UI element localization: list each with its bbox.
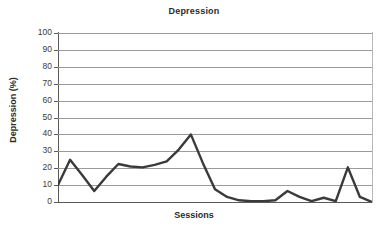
chart-title: Depression [0,6,388,16]
y-tick-label-50: 50 [30,113,52,122]
y-axis-label: Depression (%) [8,35,18,185]
x-axis-label: Sessions [0,210,388,220]
y-tick-label-60: 60 [30,96,52,105]
y-tick-label-0: 0 [30,197,52,206]
y-tick-label-40: 40 [30,129,52,138]
y-tick-label-30: 30 [30,146,52,155]
plot-area [58,33,372,202]
plot-right-border [372,32,373,203]
series-depression [58,33,372,202]
y-tick-label-80: 80 [30,62,52,71]
y-tick-label-20: 20 [30,163,52,172]
y-tick-label-100: 100 [30,28,52,37]
depression-line-chart: Depression Depression (%) 10090807060504… [0,0,388,234]
y-tick-label-90: 90 [30,45,52,54]
x-axis-line [58,202,373,203]
y-tick-label-70: 70 [30,79,52,88]
y-tick-label-10: 10 [30,180,52,189]
